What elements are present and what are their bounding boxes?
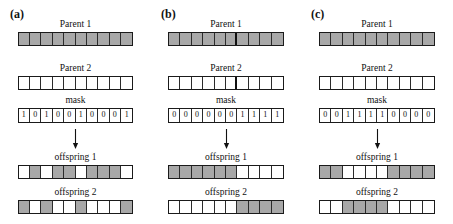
gene-cell xyxy=(260,33,271,45)
mask-bit: 0 xyxy=(423,109,434,122)
mask-bit: 1 xyxy=(377,109,388,122)
gene-cell xyxy=(64,201,75,213)
panel-b-arrow xyxy=(151,129,301,149)
gene-cell xyxy=(64,166,75,178)
mask-bit: 0 xyxy=(388,109,399,122)
gene-cell xyxy=(366,33,377,45)
gene-cell xyxy=(366,166,377,178)
panel-b-parent1-row: Parent 1 xyxy=(151,19,301,46)
panel-b-offspring1-row: offspring 1 xyxy=(151,152,301,179)
panel-a-parent2-label: Parent 2 xyxy=(60,63,91,74)
gene-cell xyxy=(41,33,52,45)
panel-b-mask-label: mask xyxy=(216,95,236,106)
gene-cell xyxy=(249,77,260,89)
mask-bit: 0 xyxy=(226,109,237,122)
panel-a-mask-row: mask 1010010001 xyxy=(0,95,151,123)
gene-cell xyxy=(366,201,377,213)
gene-cell xyxy=(53,77,64,89)
panel-c: (c) Parent 1 Parent 2 mask 0011110000 of… xyxy=(301,0,453,224)
panel-c-mask-row: mask 0011110000 xyxy=(301,95,453,123)
gene-cell xyxy=(237,77,248,89)
panel-a-parent2-chromosome xyxy=(18,76,134,90)
panel-c-mask-label: mask xyxy=(367,95,387,106)
gene-cell xyxy=(169,201,180,213)
gene-cell xyxy=(331,77,342,89)
gene-cell xyxy=(215,166,226,178)
gene-cell xyxy=(260,77,271,89)
gene-cell xyxy=(215,201,226,213)
gene-cell xyxy=(249,166,260,178)
gene-cell xyxy=(110,77,121,89)
gene-cell xyxy=(388,33,399,45)
gene-cell xyxy=(180,33,191,45)
gene-cell xyxy=(98,33,109,45)
mask-bit: 0 xyxy=(411,109,422,122)
gene-cell xyxy=(98,201,109,213)
panel-b-parent2-label: Parent 2 xyxy=(210,63,241,74)
panel-c-parent1-chromosome xyxy=(319,32,435,46)
gene-cell xyxy=(331,166,342,178)
gene-cell xyxy=(19,166,30,178)
gene-cell xyxy=(320,166,331,178)
gene-cell xyxy=(400,166,411,178)
gene-cell xyxy=(30,166,41,178)
gene-cell xyxy=(354,77,365,89)
gene-cell xyxy=(192,166,203,178)
mask-bit: 0 xyxy=(64,109,75,122)
panel-c-parent2-row: Parent 2 xyxy=(301,63,453,90)
gene-cell xyxy=(169,166,180,178)
gene-cell xyxy=(64,33,75,45)
gene-cell xyxy=(41,166,52,178)
gene-cell xyxy=(76,33,87,45)
panel-a-offspring2-chromosome xyxy=(18,200,134,214)
panel-b-mask-row: mask 0000001111 xyxy=(151,95,301,123)
gene-cell xyxy=(423,33,434,45)
mask-bit: 1 xyxy=(366,109,377,122)
mask-bit: 1 xyxy=(121,109,132,122)
gene-cell xyxy=(226,77,237,89)
gene-cell xyxy=(249,33,260,45)
panel-c-offspring2-row: offspring 2 xyxy=(301,187,453,214)
gene-cell xyxy=(87,166,98,178)
panel-a-offspring1-chromosome xyxy=(18,165,134,179)
panel-b-offspring2-chromosome xyxy=(168,200,284,214)
gene-cell xyxy=(343,77,354,89)
panel-c-parent2-chromosome xyxy=(319,76,435,90)
gene-cell xyxy=(400,77,411,89)
gene-cell xyxy=(169,77,180,89)
gene-cell xyxy=(377,166,388,178)
gene-cell xyxy=(203,77,214,89)
mask-bit: 0 xyxy=(180,109,191,122)
gene-cell xyxy=(203,33,214,45)
gene-cell xyxy=(53,166,64,178)
panel-a-offspring2-row: offspring 2 xyxy=(0,187,151,214)
panel-a-parent1-row: Parent 1 xyxy=(0,19,151,46)
panel-a-mask-label: mask xyxy=(65,95,85,106)
panel-a-parent2-row: Parent 2 xyxy=(0,63,151,90)
gene-cell xyxy=(226,33,237,45)
panel-b-offspring1-label: offspring 1 xyxy=(205,152,247,163)
gene-cell xyxy=(377,201,388,213)
panel-c-parent2-label: Parent 2 xyxy=(361,63,392,74)
gene-cell xyxy=(215,77,226,89)
gene-cell xyxy=(411,201,422,213)
gene-cell xyxy=(41,77,52,89)
crossover-figure: (a) Parent 1 Parent 2 mask 1010010001 of… xyxy=(0,0,453,224)
gene-cell xyxy=(343,33,354,45)
gene-cell xyxy=(180,77,191,89)
mask-bit: 0 xyxy=(53,109,64,122)
gene-cell xyxy=(64,77,75,89)
gene-cell xyxy=(192,77,203,89)
panel-b-parent2-row: Parent 2 xyxy=(151,63,301,90)
panel-c-offspring1-row: offspring 1 xyxy=(301,152,453,179)
gene-cell xyxy=(400,201,411,213)
gene-cell xyxy=(19,33,30,45)
mask-bit: 0 xyxy=(30,109,41,122)
gene-cell xyxy=(203,166,214,178)
gene-cell xyxy=(98,166,109,178)
gene-cell xyxy=(411,77,422,89)
mask-bit: 0 xyxy=(192,109,203,122)
mask-bit: 1 xyxy=(76,109,87,122)
mask-bit: 1 xyxy=(343,109,354,122)
panel-c-offspring2-label: offspring 2 xyxy=(356,187,398,198)
